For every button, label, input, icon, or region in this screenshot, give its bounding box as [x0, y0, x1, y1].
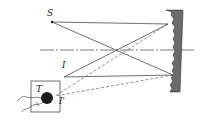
optics-diagram: S I T I' — [0, 0, 202, 123]
ray-dashed-top — [55, 24, 168, 96]
detector-lead-2 — [22, 102, 43, 112]
label-image-prime: I' — [58, 96, 65, 106]
ray-s-cross — [52, 22, 173, 75]
grating-mirror — [166, 10, 183, 92]
ray-i-bottom — [64, 75, 173, 77]
label-image: I — [61, 60, 66, 70]
label-source: S — [47, 8, 53, 18]
ray-s-top — [52, 22, 168, 24]
ray-dashed-bottom — [55, 75, 173, 96]
label-detector: T — [36, 84, 43, 94]
detector-lead-1 — [17, 96, 41, 101]
ray-top-to-i — [64, 24, 168, 77]
